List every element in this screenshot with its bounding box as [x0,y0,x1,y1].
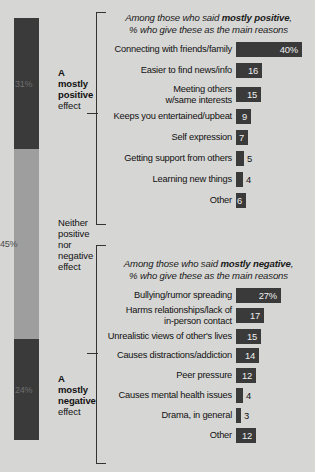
bar-track: 15 [236,329,312,344]
bar-row-label: Harms relationships/lack of in-person co… [107,305,236,326]
bar-row: Causes distractions/addiction14 [107,348,312,363]
stack-label-line: A mostly [58,67,93,89]
bar-row: Harms relationships/lack of in-person co… [107,305,312,326]
bar-value-label: 9 [242,110,247,123]
bar-row-label: Bullying/rumor spreading [107,290,236,301]
bar-row: Other12 [107,428,312,443]
bar-value-label: 6 [237,194,242,207]
bar-row: Keeps you entertained/upbeat9 [107,109,312,124]
bar-value-label: 4 [246,389,251,402]
bar-value-label: 7 [239,131,244,144]
bar-track: 7 [236,130,312,145]
bar-row: Easier to find news/info16 [107,63,312,78]
stack-label-line: Neither [58,217,93,228]
bar-value-label: 40% [280,43,298,56]
stack-label-line: effect [58,406,96,417]
bar-value-label: 17 [250,309,260,322]
bar-row: Causes mental health issues4 [107,388,312,403]
stack-label-line: positive [58,89,93,100]
bar-row: Connecting with friends/family40% [107,42,312,57]
bar-value-label: 16 [248,64,258,77]
bar-rows: Bullying/rumor spreading27%Harms relatio… [107,288,312,443]
bar-track: 27% [236,288,312,303]
panel-negative-reasons: Among those who said mostly negative,% w… [107,258,312,443]
bar-row: Self expression7 [107,130,312,145]
bar-row: Other6 [107,193,312,208]
bar-row: Bullying/rumor spreading27% [107,288,312,303]
bar-row-label: Other [107,195,236,206]
bracket-negative [96,245,97,464]
stack-segment-percent: 31% [15,79,32,89]
stack-segment-label: A mostlypositiveeffect [58,67,93,111]
bar-track: 3 [236,408,312,423]
bar-row-label: Keeps you entertained/upbeat [107,111,236,122]
bar-row: Learning new things4 [107,172,312,187]
panel-heading-emphasis: mostly negative [220,258,290,269]
bar-row: Meeting others w/same interests15 [107,84,312,105]
bar-row: Getting support from others5 [107,151,312,166]
bar-row-label: Drama, in general [107,410,236,421]
bar-rows: Connecting with friends/family40%Easier … [107,42,312,208]
bar-track: 16 [236,63,312,78]
stack-label-line: positive [58,228,93,239]
stack-segment-percent: 45% [0,239,17,249]
bar-track: 12 [236,368,312,383]
bar-track: 4 [236,388,312,403]
bar-value-label: 12 [242,369,252,382]
bar-row-label: Connecting with friends/family [107,44,236,55]
bar-value-label: 4 [246,173,251,186]
panel-heading-emphasis: mostly positive [222,12,290,23]
bar-track: 12 [236,428,312,443]
bar [236,172,243,187]
bracket-tick-bottom [96,463,106,464]
bracket-positive [96,12,97,225]
bar-value-label: 5 [247,152,252,165]
bracket-tick-bottom [96,224,106,225]
panel-positive-reasons: Among those who said mostly positive,% w… [107,12,312,208]
stack-label-line: A mostly [58,373,96,395]
bar-value-label: 12 [242,429,252,442]
stack-label-line: negative [58,395,96,406]
bar-value-label: 15 [247,88,257,101]
bar-value-label: 14 [245,349,255,362]
panel-heading: Among those who said mostly negative,% w… [107,258,312,282]
bar [236,408,241,423]
bar-value-label: 3 [244,409,249,422]
bar-row-label: Getting support from others [107,153,236,164]
bar-row-label: Causes mental health issues [107,390,236,401]
bracket-tick-middle [87,113,98,114]
bar [236,388,243,403]
stack-label-line: nor [58,239,93,250]
bar-row-label: Other [107,430,236,441]
bracket-tick-top [96,12,106,13]
stacked-bar: 31%A mostlypositiveeffect45%Neitherposit… [14,18,39,440]
bar-row: Peer pressure12 [107,368,312,383]
bar-row: Drama, in general3 [107,408,312,423]
bar-row-label: Unrealistic views of other's lives [107,331,236,342]
bar-track: 6 [236,193,312,208]
bar-row: Unrealistic views of other's lives15 [107,329,312,344]
bar-track: 9 [236,109,312,124]
bracket-tick-middle [87,353,98,354]
bracket-tick-top [96,245,106,246]
bar-row-label: Easier to find news/info [107,65,236,76]
panel-heading: Among those who said mostly positive,% w… [107,12,312,36]
bar [236,151,244,166]
stack-label-line: negative [58,250,93,261]
bar-value-label: 27% [259,289,277,302]
bar-track: 4 [236,172,312,187]
stack-segment-percent: 24% [15,385,32,395]
bar-track: 17 [236,308,312,323]
stack-label-line: effect [58,100,93,111]
infographic-root: 31%A mostlypositiveeffect45%Neitherposit… [0,0,315,472]
stack-segment [14,149,39,339]
bar-row-label: Peer pressure [107,370,236,381]
stack-segment-label: A mostlynegativeeffect [58,373,96,417]
bar-row-label: Self expression [107,132,236,143]
bar-track: 15 [236,87,312,102]
bar-track: 40% [236,42,312,57]
bar-track: 5 [236,151,312,166]
stack-segment-label: Neitherpositivenornegativeeffect [58,217,93,272]
bar-row-label: Causes distractions/addiction [107,350,236,361]
bar-value-label: 15 [247,330,257,343]
